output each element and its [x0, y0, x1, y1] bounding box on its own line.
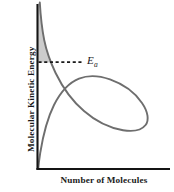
x-axis-title: Number of Molecules — [0, 176, 174, 185]
activation-energy-subscript: a — [94, 60, 98, 69]
kinetic-energy-distribution-figure: Molecular Kinetic Energy Number of Molec… — [0, 0, 174, 192]
activation-energy-symbol: E — [87, 54, 94, 66]
y-axis-title: Molecular Kinetic Energy — [27, 47, 36, 153]
activation-energy-label: Ea — [87, 55, 97, 66]
distribution-curve — [38, 3, 147, 169]
